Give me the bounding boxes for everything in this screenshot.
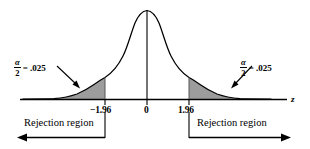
left-rejection-region-label: Rejection region [24, 118, 94, 129]
right-alpha-denominator: 2 [240, 69, 246, 78]
right-rejection-arrowhead [281, 134, 291, 142]
right-alpha-numerator: α [240, 58, 247, 67]
tick-label-zero: 0 [144, 106, 149, 116]
right-alpha-fraction: α 2 [240, 58, 247, 77]
right-rejection-region-label: Rejection region [197, 118, 267, 129]
left-alpha-value: = .025 [23, 63, 46, 73]
normal-distribution-figure: α 2 = .025 α 2 = .025 −1.96 0 1.96 z Rej… [0, 0, 310, 149]
tick-label-negative-1-96: −1.96 [90, 106, 111, 116]
right-alpha-value: = .025 [249, 63, 272, 73]
left-rejection-arrowhead [17, 134, 27, 142]
left-annotation-leader-shaft [57, 66, 76, 84]
right-rejection-shade [189, 78, 271, 100]
axis-variable-label: z [291, 95, 295, 104]
left-alpha-numerator: α [14, 58, 21, 67]
left-rejection-shade [23, 78, 105, 100]
right-alpha-annotation: α 2 = .025 [240, 58, 272, 77]
left-alpha-fraction: α 2 [14, 58, 21, 77]
tick-label-positive-1-96: 1.96 [178, 106, 194, 116]
left-alpha-annotation: α 2 = .025 [14, 58, 46, 77]
left-alpha-denominator: 2 [14, 69, 20, 78]
